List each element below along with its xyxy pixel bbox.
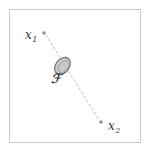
- point-label-x1-variable: x: [25, 28, 32, 42]
- point-label-x2: x2: [108, 117, 120, 135]
- point-label-x1-subscript: 1: [32, 35, 37, 44]
- point-marker-x2: [99, 120, 102, 123]
- figure-canvas: x1 x2 ℱ: [0, 0, 148, 150]
- region-label-f: ℱ: [51, 72, 61, 85]
- point-label-x2-subscript: 2: [115, 126, 120, 135]
- point-marker-x1: [42, 31, 45, 34]
- point-label-x2-variable: x: [108, 119, 115, 133]
- figure-vector-layer: [0, 0, 148, 150]
- point-label-x1: x1: [25, 26, 37, 44]
